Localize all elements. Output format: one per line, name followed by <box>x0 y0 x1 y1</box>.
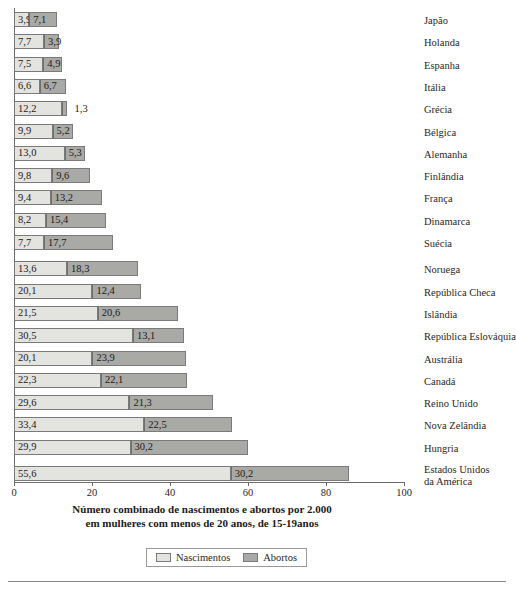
bar-value-label-abortions: 3,9 <box>48 37 61 48</box>
x-tick-label: 0 <box>11 487 16 498</box>
bar-segment-births: 21,5 <box>14 306 98 321</box>
bar-segment-births: 29,6 <box>14 395 129 410</box>
bar-value-label-births: 9,8 <box>18 170 31 181</box>
bar-value-label-births: 20,1 <box>18 286 36 297</box>
bar-segment-births: 13,0 <box>14 146 65 161</box>
bar-value-label-abortions: 20,6 <box>102 308 120 319</box>
plot-area: 3,97,17,73,97,54,96,66,712,21,39,95,213,… <box>14 8 404 482</box>
bar-value-label-births: 33,4 <box>18 420 36 431</box>
x-axis-title-line1: Número combinado de nascimentos e aborto… <box>0 502 404 516</box>
bar-value-label-abortions: 13,2 <box>55 193 73 204</box>
category-label: França <box>424 193 453 205</box>
bar-value-label-abortions: 7,1 <box>33 14 46 25</box>
x-tick <box>92 482 93 486</box>
bar-row: 3,97,1 <box>14 12 57 27</box>
bar-segment-abortions: 22,1 <box>101 373 187 388</box>
bar-segment-abortions: 18,3 <box>67 261 138 276</box>
bar-row: 9,89,6 <box>14 168 90 183</box>
footer-divider <box>8 581 506 582</box>
bar-segment-abortions: 13,1 <box>133 328 184 343</box>
bar-segment-abortions: 30,2 <box>131 440 249 455</box>
category-label: Estados Unidosda América <box>424 464 490 487</box>
bar-segment-abortions: 30,2 <box>231 466 349 481</box>
bar-value-label-births: 7,5 <box>18 59 31 70</box>
legend-item-nascimentos: Nascimentos <box>156 552 230 563</box>
bar-value-label-abortions: 17,7 <box>48 237 66 248</box>
bar-segment-births: 13,6 <box>14 261 67 276</box>
bar-value-label-births: 7,7 <box>18 237 31 248</box>
category-label: Grécia <box>424 104 452 116</box>
bar-segment-births: 20,1 <box>14 351 92 366</box>
x-axis-title-line2: em mulheres com menos de 20 anos, de 15-… <box>0 516 404 530</box>
bar-value-label-births: 20,1 <box>18 353 36 364</box>
bar-value-label-abortions: 21,3 <box>133 397 151 408</box>
bar-segment-births: 12,2 <box>14 101 62 116</box>
bar-value-label-abortions: 9,6 <box>56 170 69 181</box>
category-label: Itália <box>424 82 446 94</box>
bar-value-label-abortions: 22,5 <box>148 420 166 431</box>
category-label: Bélgica <box>424 127 456 139</box>
bar-segment-abortions: 13,2 <box>51 190 102 205</box>
bar-value-label-abortions: 1,3 <box>75 103 88 114</box>
category-label: Noruega <box>424 264 460 276</box>
bar-row: 7,73,9 <box>14 34 59 49</box>
bar-segment-births: 7,7 <box>14 235 44 250</box>
x-tick-label: 40 <box>165 487 176 498</box>
bar-value-label-births: 21,5 <box>18 308 36 319</box>
bar-row: 29,621,3 <box>14 395 213 410</box>
x-tick <box>404 482 405 486</box>
bar-segment-abortions: 12,4 <box>92 284 140 299</box>
bar-row: 13,618,3 <box>14 261 138 276</box>
bar-row: 12,21,3 <box>14 101 67 116</box>
category-label: Dinamarca <box>424 216 470 228</box>
x-tick-label: 60 <box>243 487 254 498</box>
bar-value-label-abortions: 15,4 <box>50 215 68 226</box>
bar-row: 29,930,2 <box>14 440 248 455</box>
bar-value-label-births: 7,7 <box>18 37 31 48</box>
category-label-line2: da América <box>424 476 490 488</box>
category-label: Canadá <box>424 376 456 388</box>
x-tick <box>326 482 327 486</box>
bar-segment-births: 9,8 <box>14 168 52 183</box>
bar-segment-abortions: 21,3 <box>129 395 212 410</box>
category-label: Nova Zelândia <box>424 420 486 432</box>
bar-segment-abortions: 4,9 <box>43 57 62 72</box>
x-tick-label: 100 <box>396 487 412 498</box>
bar-segment-abortions: 17,7 <box>44 235 113 250</box>
bar-segment-births: 8,2 <box>14 213 46 228</box>
bar-value-label-births: 12,2 <box>18 103 36 114</box>
category-label: Japão <box>424 15 448 27</box>
bar-segment-births: 9,9 <box>14 124 53 139</box>
bar-row: 9,95,2 <box>14 124 73 139</box>
bar-segment-births: 20,1 <box>14 284 92 299</box>
bar-value-label-births: 13,6 <box>18 264 36 275</box>
bar-segment-abortions: 6,7 <box>40 79 66 94</box>
bar-row: 55,630,2 <box>14 466 349 481</box>
bar-segment-abortions: 22,5 <box>144 417 232 432</box>
category-label: República Checa <box>424 287 495 299</box>
x-axis-line <box>14 482 404 483</box>
bar-value-label-births: 8,2 <box>18 215 31 226</box>
bar-value-label-abortions: 5,2 <box>57 126 70 137</box>
bar-value-label-births: 55,6 <box>18 468 36 479</box>
category-label: Suécia <box>424 238 452 250</box>
bar-segment-abortions: 20,6 <box>98 306 178 321</box>
bar-segment-births: 33,4 <box>14 417 144 432</box>
bar-row: 33,422,5 <box>14 417 232 432</box>
bar-segment-abortions: 7,1 <box>29 12 57 27</box>
bar-row: 8,215,4 <box>14 213 106 228</box>
bar-value-label-births: 30,5 <box>18 330 36 341</box>
bar-segment-abortions: 3,9 <box>44 34 59 49</box>
category-label: Holanda <box>424 37 460 49</box>
bar-segment-births: 7,5 <box>14 57 43 72</box>
bar-value-label-abortions: 18,3 <box>71 264 89 275</box>
footer-caption-cutoff <box>10 586 504 594</box>
category-label: Reino Unido <box>424 398 478 410</box>
bar-segment-births: 22,3 <box>14 373 101 388</box>
bar-row: 20,112,4 <box>14 284 141 299</box>
bar-value-label-births: 29,9 <box>18 442 36 453</box>
bar-value-label-births: 22,3 <box>18 375 36 386</box>
bar-row: 7,54,9 <box>14 57 62 72</box>
bar-segment-abortions: 5,2 <box>53 124 73 139</box>
bar-value-label-abortions: 23,9 <box>96 353 114 364</box>
